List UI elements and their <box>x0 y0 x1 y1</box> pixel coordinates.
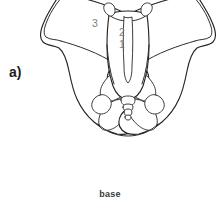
callout-number-2: 2 <box>119 26 125 38</box>
figure-root: a) <box>0 0 220 208</box>
panel-label: a) <box>9 64 21 80</box>
figure-caption: base <box>0 189 220 200</box>
pelvis-line-drawing: 3 2 1 <box>38 0 218 144</box>
left-acetabulum <box>92 95 112 114</box>
callout-number-1: 1 <box>119 38 125 50</box>
right-acetabulum <box>145 95 165 114</box>
coccyx-tip <box>125 115 131 120</box>
callout-number-3: 3 <box>92 17 98 29</box>
